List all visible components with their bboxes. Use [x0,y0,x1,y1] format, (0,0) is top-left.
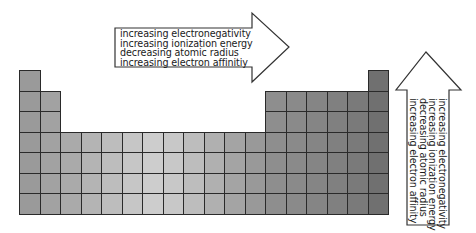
vertical-arrow-labels: increasing electronegativity increasing … [409,98,447,231]
horizontal-arrow-labels: increasing electronegativity increasing … [120,29,253,67]
trend-label: increasing electronegativity [437,98,447,231]
trend-label: increasing electron affinity [409,98,419,231]
trend-label: decreasing atomic radius [418,98,428,231]
trend-label: increasing ionization energy [428,98,438,231]
periodic-trends-diagram: increasing electronegativity increasing … [0,0,476,233]
trend-label: increasing electron affinitiy [120,58,253,68]
